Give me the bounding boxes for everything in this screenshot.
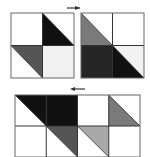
tile-cell — [46, 95, 77, 126]
tile-combined — [15, 95, 140, 157]
arrow-left-icon — [70, 87, 85, 91]
tile-cell — [81, 46, 113, 79]
arrow-right-icon — [67, 6, 80, 10]
tile-cell — [109, 126, 140, 157]
tile-cell — [15, 126, 46, 157]
tiling-diagram — [0, 0, 150, 157]
tile-cell — [113, 13, 145, 46]
tile-cell — [78, 95, 109, 126]
tile-a — [11, 13, 74, 78]
tile-cell — [11, 13, 43, 46]
tile-b — [81, 13, 144, 78]
tile-cell — [43, 46, 75, 79]
